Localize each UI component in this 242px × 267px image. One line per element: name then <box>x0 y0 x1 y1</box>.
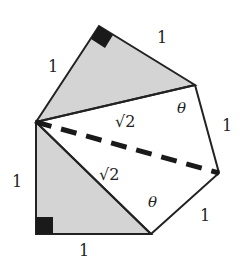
label-angle-lower: θ <box>148 193 157 211</box>
upper-right-triangle <box>36 26 195 122</box>
label-right-upper-side: 1 <box>222 116 232 135</box>
label-bottom-side: 1 <box>79 241 89 260</box>
right-angle-marker-bottom <box>36 217 53 234</box>
label-top-right-side: 1 <box>157 28 167 47</box>
geometry-diagram: 1 1 1 1 1 1 √2 √2 θ θ <box>0 0 242 267</box>
label-lower-diagonal: √2 <box>99 165 119 184</box>
label-right-lower-side: 1 <box>200 206 210 225</box>
label-top-left-side: 1 <box>48 57 58 76</box>
label-angle-upper: θ <box>177 99 186 117</box>
label-upper-diagonal: √2 <box>115 112 135 131</box>
label-left-side: 1 <box>12 172 22 191</box>
